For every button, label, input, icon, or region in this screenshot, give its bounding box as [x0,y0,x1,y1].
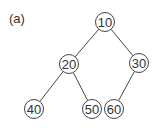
edge-30-60 [119,71,135,100]
node-value: 50 [85,102,99,117]
tree-node-60: 60 [105,100,124,119]
binary-tree-diagram: 102030405060 [0,0,166,133]
edge-10-20 [75,29,99,57]
tree-node-20: 20 [60,55,79,74]
tree-node-40: 40 [25,100,44,119]
tree-edges [40,29,135,101]
tree-nodes: 102030405060 [25,13,149,119]
edge-20-50 [73,72,87,100]
node-value: 60 [107,102,121,117]
node-value: 10 [98,15,112,30]
node-value: 30 [132,56,146,71]
tree-node-10: 10 [96,13,115,32]
tree-node-50: 50 [83,100,102,119]
edge-10-30 [111,29,133,55]
node-value: 40 [27,102,41,117]
tree-node-30: 30 [130,54,149,73]
node-value: 20 [62,57,76,72]
edge-20-40 [40,71,63,101]
